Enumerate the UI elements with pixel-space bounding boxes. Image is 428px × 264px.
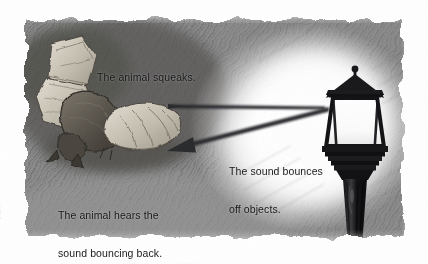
caption-bounce-line2: off objects. xyxy=(229,203,323,216)
caption-animal-squeaks: The animal squeaks. xyxy=(97,46,196,109)
caption-hears-line2: sound bouncing back. xyxy=(58,247,171,260)
caption-squeak-line1: The animal squeaks. xyxy=(97,71,196,84)
illustration-scene: The animal squeaks. The sound bounces of… xyxy=(0,0,428,264)
caption-hears-line1: The animal hears the xyxy=(58,209,171,222)
caption-animal-hears: The animal hears the sound bouncing back… xyxy=(58,184,171,264)
caption-sound-bounces: The sound bounces off objects. xyxy=(229,140,323,241)
artboard: The animal squeaks. The sound bounces of… xyxy=(0,0,428,264)
caption-bounce-line1: The sound bounces xyxy=(229,165,323,178)
